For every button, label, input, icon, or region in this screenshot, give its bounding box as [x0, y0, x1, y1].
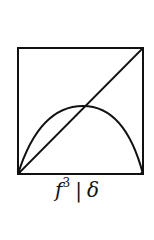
caption-power: 3	[62, 176, 70, 190]
end-point	[141, 172, 144, 175]
origin-point	[17, 171, 21, 175]
caption-symbol: δ	[87, 178, 99, 202]
caption: f3|δ	[0, 178, 154, 202]
caption-separator: |	[75, 178, 82, 202]
identity-diagonal	[18, 48, 143, 174]
unimodal-curve	[18, 106, 143, 174]
